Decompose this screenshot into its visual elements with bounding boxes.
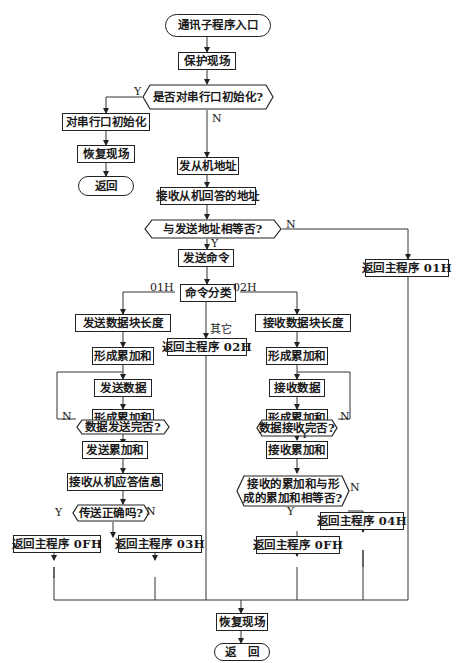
recv-block-len-box: 接收数据块长度 bbox=[255, 314, 351, 332]
send-form-sum1-label: 形成累加和 bbox=[94, 350, 152, 363]
save-context-box: 保护现场 bbox=[178, 52, 236, 70]
edge-label-addr-yes: Y bbox=[211, 237, 218, 250]
edge-label-sum-equal-yes: Y bbox=[287, 505, 294, 518]
return-02h-box: 返回主程序 02H bbox=[167, 338, 247, 356]
send-form-sum1-box: 形成累加和 bbox=[92, 347, 154, 365]
return-final-label: 返 回 bbox=[225, 646, 260, 659]
edge-label-recv-done-no: N bbox=[340, 410, 350, 423]
start-label: 通讯子程序入口 bbox=[178, 19, 259, 32]
recv-slave-addr-box: 接收从机回答的地址 bbox=[160, 187, 256, 205]
send-block-len-label: 发送数据块长度 bbox=[83, 317, 164, 330]
cmd-classify-box: 命令分类 bbox=[180, 284, 236, 302]
recv-data-label: 接收数据 bbox=[274, 382, 320, 395]
save-context-label: 保护现场 bbox=[184, 55, 230, 68]
init-serial-label: 对串行口初始化 bbox=[66, 116, 147, 129]
send-done-decision: 数据发送完否? bbox=[76, 419, 170, 435]
sum-equal-decision-line1: 接收的累加和与形 bbox=[243, 477, 342, 491]
recv-form-sum1-label: 形成累加和 bbox=[268, 350, 326, 363]
send-done-decision-label: 数据发送完否? bbox=[85, 421, 161, 434]
return-0fh-left-box: 返回主程序 0FH bbox=[13, 535, 101, 553]
recv-done-decision: 数据接收完否? bbox=[256, 419, 338, 437]
return-left-label: 返回 bbox=[95, 180, 118, 193]
edge-label-cmd-other: 其它 bbox=[210, 320, 232, 336]
sum-equal-decision: 接收的累加和与形 成的累加和相等否? bbox=[236, 475, 350, 507]
recv-form-sum1-box: 形成累加和 bbox=[266, 347, 328, 365]
return-01h-box: 返回主程序 01H bbox=[365, 259, 449, 277]
send-ok-decision-label: 传送正确吗? bbox=[79, 507, 144, 520]
restore-final-label: 恢复现场 bbox=[219, 616, 265, 629]
return-left-terminal: 返回 bbox=[78, 176, 134, 196]
send-cmd-box: 发送命令 bbox=[178, 249, 234, 267]
send-data-box: 发送数据 bbox=[94, 379, 152, 397]
recv-done-decision-label: 数据接收完否? bbox=[259, 422, 335, 435]
return-0fh-right-box: 返回主程序 0FH bbox=[256, 536, 340, 554]
recv-sum-box: 接收累加和 bbox=[266, 441, 328, 459]
restore-final-box: 恢复现场 bbox=[216, 613, 268, 631]
init-serial-decision: 是否对串行口初始化? bbox=[142, 84, 274, 110]
send-block-len-box: 发送数据块长度 bbox=[75, 314, 171, 332]
return-03h-label: 返回主程序 03H bbox=[115, 538, 205, 551]
recv-slave-reply-box: 接收从机应答信息 bbox=[67, 473, 163, 491]
return-01h-label: 返回主程序 01H bbox=[362, 262, 452, 275]
return-03h-box: 返回主程序 03H bbox=[118, 535, 202, 553]
start-terminal: 通讯子程序入口 bbox=[165, 14, 271, 37]
edge-label-addr-no: N bbox=[286, 218, 296, 231]
edge-label-send-ok-no: N bbox=[146, 505, 156, 518]
edge-label-send-done-no: N bbox=[62, 410, 72, 423]
return-0fh-left-label: 返回主程序 0FH bbox=[12, 538, 103, 551]
recv-data-box: 接收数据 bbox=[269, 379, 325, 397]
edge-label-sum-equal-no: N bbox=[350, 481, 360, 494]
restore-left-label: 恢复现场 bbox=[83, 148, 129, 161]
send-slave-addr-label: 发从机地址 bbox=[179, 160, 237, 173]
recv-slave-reply-label: 接收从机应答信息 bbox=[69, 476, 161, 489]
sum-equal-decision-line2: 成的累加和相等否? bbox=[243, 491, 342, 505]
recv-block-len-label: 接收数据块长度 bbox=[263, 317, 344, 330]
addr-equal-decision-label: 与发送地址相等否? bbox=[163, 223, 262, 236]
init-serial-decision-label: 是否对串行口初始化? bbox=[153, 91, 264, 104]
recv-sum-label: 接收累加和 bbox=[268, 444, 326, 457]
edge-label-init-no: N bbox=[212, 112, 222, 125]
send-sum-box: 发送累加和 bbox=[82, 441, 148, 459]
recv-slave-addr-label: 接收从机回答的地址 bbox=[156, 190, 260, 203]
edge-label-init-yes: Y bbox=[134, 85, 141, 98]
return-0fh-right-label: 返回主程序 0FH bbox=[253, 539, 344, 552]
send-slave-addr-box: 发从机地址 bbox=[177, 157, 239, 175]
edge-label-cmd-02h: 02H bbox=[233, 281, 257, 294]
addr-equal-decision: 与发送地址相等否? bbox=[144, 219, 282, 239]
return-04h-box: 返回主程序 04H bbox=[320, 512, 404, 530]
flowchart-canvas: 通讯子程序入口 保护现场 是否对串行口初始化? 对串行口初始化 恢复现场 返回 … bbox=[0, 0, 472, 663]
cmd-classify-label: 命令分类 bbox=[185, 287, 231, 300]
init-serial-box: 对串行口初始化 bbox=[62, 113, 150, 131]
edge-label-cmd-01h: 01H bbox=[150, 281, 174, 294]
return-04h-label: 返回主程序 04H bbox=[317, 515, 407, 528]
edge-label-send-ok-yes: Y bbox=[55, 506, 62, 519]
send-ok-decision: 传送正确吗? bbox=[72, 504, 150, 522]
send-cmd-label: 发送命令 bbox=[183, 252, 229, 265]
send-data-label: 发送数据 bbox=[100, 382, 146, 395]
restore-left-box: 恢复现场 bbox=[77, 145, 135, 163]
edge-label-recv-done-yes: Y bbox=[301, 428, 308, 441]
return-final-terminal: 返 回 bbox=[214, 643, 270, 661]
send-sum-label: 发送累加和 bbox=[86, 444, 144, 457]
return-02h-label: 返回主程序 02H bbox=[162, 341, 252, 354]
